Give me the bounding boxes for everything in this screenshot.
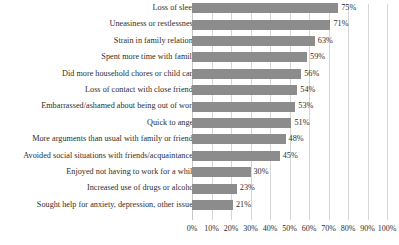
bar-value-label: 51% bbox=[294, 115, 309, 131]
bar-row: Embarrassed/ashamed about being out of w… bbox=[0, 98, 399, 114]
bar bbox=[192, 69, 301, 79]
bar bbox=[192, 85, 297, 95]
x-tick-label: 0% bbox=[187, 222, 198, 236]
bar-row: Avoided social situations with friends/a… bbox=[0, 148, 399, 164]
x-tick-label: 50% bbox=[282, 222, 297, 236]
bar-value-label: 45% bbox=[283, 148, 298, 164]
bar-rows: Loss of sleep75%Uneasiness or restlessne… bbox=[0, 0, 399, 216]
bar bbox=[192, 52, 307, 62]
category-label: Loss of sleep bbox=[153, 0, 196, 16]
bar-value-label: 30% bbox=[254, 164, 269, 180]
category-label: Embarrassed/ashamed about being out of w… bbox=[41, 98, 196, 114]
bar-value-label: 75% bbox=[341, 0, 356, 16]
bar bbox=[192, 36, 315, 46]
bar bbox=[192, 167, 251, 177]
bar bbox=[192, 151, 280, 161]
category-label: Strain in family relations bbox=[114, 33, 196, 49]
x-axis: 0%10%20%30%40%50%60%70%80%90%100% bbox=[0, 222, 399, 236]
x-tick-label: 90% bbox=[360, 222, 375, 236]
x-tick-label: 100% bbox=[378, 222, 397, 236]
bar-value-label: 48% bbox=[289, 131, 304, 147]
bar bbox=[192, 134, 286, 144]
bar-value-label: 63% bbox=[318, 33, 333, 49]
bar-row: Did more household chores or child care5… bbox=[0, 66, 399, 82]
category-label: Avoided social situations with friends/a… bbox=[23, 148, 196, 164]
bar bbox=[192, 200, 233, 210]
bar-value-label: 23% bbox=[240, 180, 255, 196]
category-label: Enjoyed not having to work for a while bbox=[66, 164, 196, 180]
bar bbox=[192, 118, 291, 128]
x-tick-label: 30% bbox=[243, 222, 258, 236]
x-tick-label: 60% bbox=[302, 222, 317, 236]
x-tick-label: 80% bbox=[341, 222, 356, 236]
bar-row: Spent more time with family59% bbox=[0, 49, 399, 65]
bar bbox=[192, 184, 237, 194]
category-label: Sought help for anxiety, depression, oth… bbox=[37, 197, 196, 213]
x-tick-label: 10% bbox=[204, 222, 219, 236]
category-label: Loss of contact with close friends bbox=[85, 82, 196, 98]
category-label: Spent more time with family bbox=[101, 49, 196, 65]
bar-value-label: 71% bbox=[333, 16, 348, 32]
bar-value-label: 54% bbox=[300, 82, 315, 98]
bar-value-label: 53% bbox=[298, 98, 313, 114]
category-label: Increased use of drugs or alcohol bbox=[87, 180, 196, 196]
bar-row: More arguments than usual with family or… bbox=[0, 131, 399, 147]
bar-row: Uneasiness or restlessness71% bbox=[0, 16, 399, 32]
bar bbox=[192, 20, 330, 30]
bar-value-label: 56% bbox=[304, 66, 319, 82]
bar-row: Loss of sleep75% bbox=[0, 0, 399, 16]
bar-value-label: 21% bbox=[236, 197, 251, 213]
category-label: More arguments than usual with family or… bbox=[32, 131, 196, 147]
bar-row: Strain in family relations63% bbox=[0, 33, 399, 49]
bar-row: Enjoyed not having to work for a while30… bbox=[0, 164, 399, 180]
bar-chart: Loss of sleep75%Uneasiness or restlessne… bbox=[0, 0, 399, 245]
x-tick-label: 70% bbox=[321, 222, 336, 236]
bar-row: Quick to anger51% bbox=[0, 115, 399, 131]
category-label: Uneasiness or restlessness bbox=[110, 16, 196, 32]
category-label: Quick to anger bbox=[147, 115, 196, 131]
bar-row: Loss of contact with close friends54% bbox=[0, 82, 399, 98]
bar-row: Sought help for anxiety, depression, oth… bbox=[0, 197, 399, 213]
category-label: Did more household chores or child care bbox=[62, 66, 196, 82]
bar bbox=[192, 3, 338, 13]
bar bbox=[192, 102, 295, 112]
x-tick-label: 40% bbox=[263, 222, 278, 236]
x-tick-label: 20% bbox=[224, 222, 239, 236]
bar-row: Increased use of drugs or alcohol23% bbox=[0, 180, 399, 196]
bar-value-label: 59% bbox=[310, 49, 325, 65]
